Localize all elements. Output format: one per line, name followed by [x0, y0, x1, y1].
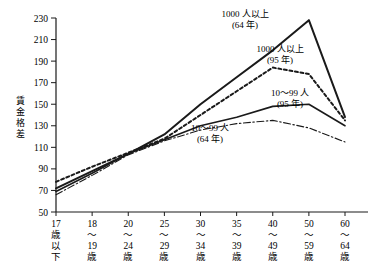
x-axis-label-6-row-3: 歳 [268, 251, 278, 261]
x-axis-label-7-row-1: 〜 [304, 230, 314, 240]
x-axis-label-4-row-2: 34 [196, 241, 206, 251]
y-tick-label-190: 190 [34, 57, 49, 67]
annotation-1099-64: 10〜99 人 (64 年) [191, 123, 229, 144]
x-axis-label-0-row-3: 下 [51, 252, 61, 261]
x-axis-label-0-row-2: 以 [51, 241, 61, 251]
x-axis-ticks [56, 212, 345, 216]
x-axis-label-7-row-2: 59 [304, 241, 314, 251]
y-axis-title-char-0: 賃 [16, 95, 25, 106]
x-axis-label-5-row-1: 〜 [232, 230, 242, 240]
annotation-1000-95-line1: 1000 人以上 [256, 44, 303, 54]
y-axis-title: 賃 金 格 差 [16, 95, 25, 139]
annotation-1000-64: 1000 人以上 (64 年) [221, 9, 268, 30]
x-axis-label-7-row-0: 50 [304, 219, 314, 229]
x-axis-label-7-row-3: 歳 [304, 251, 314, 261]
x-axis-label-0-row-1: 歳 [51, 229, 61, 240]
x-axis-label-2-row-2: 24 [124, 241, 134, 251]
annotation-1000-64-line1: 1000 人以上 [221, 9, 268, 19]
y-tick-label-50: 50 [39, 208, 49, 218]
y-axis-title-char-2: 格 [16, 117, 25, 128]
x-axis-label-1-row-3: 歳 [87, 251, 97, 261]
x-axis-label-1-row-1: 〜 [87, 230, 97, 240]
x-axis-label-6-row-0: 40 [268, 219, 278, 229]
x-axis-label-5-row-3: 歳 [232, 251, 242, 261]
x-axis-label-8-row-0: 60 [340, 219, 350, 229]
y-axis-title-char-1: 金 [16, 106, 25, 117]
y-tick-label-90: 90 [39, 164, 49, 174]
annotation-1000-64-line2: (64 年) [232, 19, 258, 30]
x-axis-label-1-row-0: 18 [87, 219, 97, 229]
y-tick-label-70: 70 [39, 186, 49, 196]
x-axis-label-3-row-2: 29 [160, 241, 170, 251]
x-axis-label-6-row-2: 49 [268, 241, 278, 251]
wage-differential-chart: 賃 金 格 差 507090110130150170190210230 17歳以… [0, 0, 377, 261]
y-axis-title-char-3: 差 [16, 128, 25, 139]
x-axis-label-8-row-3: 歳 [340, 251, 350, 261]
x-axis-label-8-row-1: 〜 [340, 230, 350, 240]
y-tick-label-230: 230 [34, 14, 49, 24]
x-axis-label-2-row-3: 歳 [123, 251, 133, 261]
axes [56, 18, 368, 212]
y-tick-label-210: 210 [34, 35, 49, 45]
x-axis-labels: 17歳以下18〜19歳20〜24歳25〜29歳30〜34歳35〜39歳40〜49… [51, 219, 350, 261]
x-axis-label-3-row-3: 歳 [159, 251, 169, 261]
chart-canvas: 賃 金 格 差 507090110130150170190210230 17歳以… [0, 0, 377, 261]
y-tick-label-150: 150 [34, 100, 49, 110]
annotation-1000-95-line2: (95 年) [267, 54, 293, 65]
x-axis-label-6-row-1: 〜 [268, 230, 278, 240]
y-axis-ticks: 507090110130150170190210230 [34, 14, 56, 218]
annotation-1000-95: 1000 人以上 (95 年) [256, 44, 303, 65]
annotation-1099-95-line1: 10〜99 人 [271, 88, 309, 98]
x-axis-label-1-row-2: 19 [87, 241, 97, 251]
x-axis-label-5-row-0: 35 [232, 219, 242, 229]
y-tick-label-170: 170 [34, 78, 49, 88]
annotation-1099-64-line2: (64 年) [197, 133, 223, 144]
x-axis-label-3-row-0: 25 [160, 219, 170, 229]
x-axis-label-2-row-0: 20 [124, 219, 134, 229]
annotation-1099-95-line2: (95 年) [277, 98, 303, 109]
x-axis-label-3-row-1: 〜 [159, 230, 169, 240]
x-axis-label-0-row-0: 17 [51, 219, 61, 229]
series-line-2 [56, 104, 345, 191]
x-axis-label-4-row-0: 30 [196, 219, 206, 229]
annotation-1099-95: 10〜99 人 (95 年) [271, 88, 309, 109]
x-axis-label-8-row-2: 64 [340, 241, 350, 251]
y-tick-label-110: 110 [34, 143, 48, 153]
x-axis-label-2-row-1: 〜 [123, 230, 133, 240]
x-axis-label-4-row-3: 歳 [196, 251, 206, 261]
x-axis-label-5-row-2: 39 [232, 241, 242, 251]
x-axis-label-4-row-1: 〜 [196, 230, 206, 240]
y-tick-label-130: 130 [34, 121, 49, 131]
annotation-1099-64-line1: 10〜99 人 [191, 123, 229, 133]
